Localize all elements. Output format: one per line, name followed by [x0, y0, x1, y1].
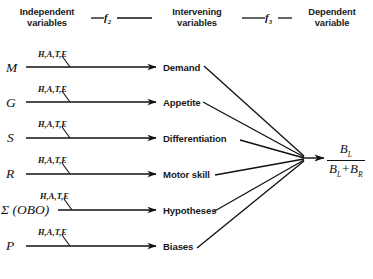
modifier-label-row-6: H,A,T,E [38, 228, 67, 237]
function-label-f2: f3 [265, 11, 272, 25]
modifier-label-row-4: H,A,T,E [38, 156, 67, 165]
converge-motor-skill-to-junction [215, 159, 304, 175]
independent-variable-p: P [6, 238, 14, 254]
modifier-label-row-1: H,A,T,E [38, 50, 67, 59]
fraction-numerator: BL [327, 142, 365, 160]
independent-variable-sigma-obo: Σ (OBO) [1, 202, 49, 218]
intervening-variable-motor-skill: Motor skill [163, 169, 210, 180]
independent-variable-g: G [6, 95, 16, 111]
modifier-label-row-2: H,A,T,E [38, 85, 67, 94]
intervening-variable-appetite: Appetite [163, 97, 201, 108]
diagram-canvas: Independent variables Intervening variab… [0, 0, 373, 279]
independent-variable-m: M [6, 60, 17, 76]
intervening-variable-hypotheses: Hypotheses [163, 205, 216, 216]
converge-differentiation-to-junction [240, 140, 304, 158]
modifier-label-row-5: H,A,T,E [40, 192, 69, 201]
header-intervening-variables: Intervening variables [158, 6, 236, 28]
header-dependent-variable: Dependent variable [296, 6, 368, 28]
fraction-denominator: BL+BR [327, 161, 365, 179]
independent-variable-s: S [7, 130, 14, 146]
intervening-variable-demand: Demand [163, 62, 200, 73]
modifier-label-row-3: H,A,T,E [38, 120, 67, 129]
intervening-variable-differentiation: Differentiation [163, 133, 227, 144]
header-independent-variables: Independent variables [8, 6, 86, 28]
converge-appetite-to-junction [203, 102, 304, 157]
dependent-variable-fraction: BL BL+BR [327, 142, 365, 178]
independent-variable-r: R [6, 166, 14, 182]
converge-hypotheses-to-junction [213, 160, 304, 212]
function-label-f1: f2 [104, 11, 111, 25]
intervening-variable-biases: Biases [163, 241, 193, 252]
